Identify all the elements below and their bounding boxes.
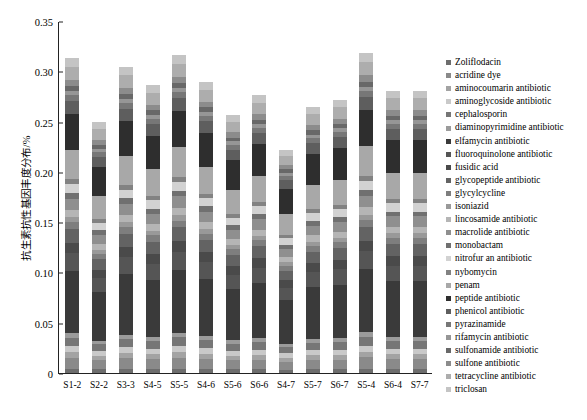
legend-item-label: pyrazinamide xyxy=(455,318,506,331)
legend-swatch-icon xyxy=(446,243,451,248)
legend-item[interactable]: glycopeptide antibiotic xyxy=(446,174,586,187)
legend-item[interactable]: macrolide antibiotic xyxy=(446,226,586,239)
bar-S5-5[interactable]: S5-5 xyxy=(172,55,186,373)
legend: Zoliflodacinacridine dyeaminocoumarin an… xyxy=(446,56,586,396)
bar-S5-7[interactable]: S5-7 xyxy=(306,107,320,373)
bar-S5-4[interactable]: S5-4 xyxy=(359,53,373,373)
bar-segment xyxy=(252,176,266,202)
legend-item[interactable]: sulfone antibiotic xyxy=(446,357,586,370)
legend-item[interactable]: nybomycin xyxy=(446,266,586,279)
legend-item[interactable]: sulfonamide antibiotic xyxy=(446,344,586,357)
bar-segment xyxy=(146,341,160,349)
bar-segment xyxy=(146,200,160,208)
legend-swatch-icon xyxy=(446,230,451,235)
legend-swatch-icon xyxy=(446,99,451,104)
bar-segment xyxy=(413,140,427,172)
legend-item[interactable]: diaminopyrimidine antibiotic xyxy=(446,121,586,134)
legend-item-label: macrolide antibiotic xyxy=(455,226,530,239)
bar-segment xyxy=(333,209,347,217)
bar-segment xyxy=(306,343,320,350)
bar-S4-6[interactable]: S4-6 xyxy=(199,82,213,373)
bar-segment xyxy=(172,64,186,77)
bar-S7-7[interactable]: S7-7 xyxy=(413,91,427,373)
bar-segment xyxy=(386,256,400,265)
bar-segment xyxy=(359,369,373,373)
legend-item[interactable]: Zoliflodacin xyxy=(446,56,586,69)
x-axis-tick-label: S5-7 xyxy=(304,380,322,390)
legend-swatch-icon xyxy=(446,374,451,379)
legend-swatch-icon xyxy=(446,204,451,209)
bar-S6-7[interactable]: S6-7 xyxy=(333,100,347,373)
bar-segment xyxy=(252,103,266,115)
x-axis-tick-label: S6-6 xyxy=(250,380,268,390)
bar-segment xyxy=(279,280,293,287)
legend-item[interactable]: isoniazid xyxy=(446,200,586,213)
bar-segment xyxy=(226,160,240,190)
bar-segment xyxy=(413,91,427,99)
bar-segment xyxy=(252,133,266,144)
bar-segment xyxy=(146,254,160,264)
legend-item[interactable]: nitrofur an antibiotic xyxy=(446,252,586,265)
bar-segment xyxy=(306,360,320,369)
bar-segment xyxy=(333,342,347,349)
y-axis-tick-label: 0.10 xyxy=(35,268,59,279)
legend-item[interactable]: fluoroquinolone antibiotic xyxy=(446,148,586,161)
bar-segment xyxy=(92,270,106,278)
legend-item[interactable]: phenicol antibiotic xyxy=(446,305,586,318)
legend-item[interactable]: peptide antibiotic xyxy=(446,292,586,305)
bar-segment xyxy=(65,222,79,229)
bar-segment xyxy=(306,185,320,210)
legend-item[interactable]: penam xyxy=(446,279,586,292)
bar-S6-4[interactable]: S6-4 xyxy=(386,91,400,373)
bar-segment xyxy=(252,144,266,176)
bar-S4-5[interactable]: S4-5 xyxy=(146,85,160,373)
legend-item[interactable]: tetracycline antibiotic xyxy=(446,370,586,383)
bar-segment xyxy=(92,344,106,351)
bar-segment xyxy=(92,259,106,270)
bar-segment xyxy=(359,196,373,208)
bar-segment xyxy=(413,129,427,140)
bar-S4-7[interactable]: S4-7 xyxy=(279,150,293,373)
legend-item[interactable]: monobactam xyxy=(446,239,586,252)
legend-item[interactable]: cephalosporin xyxy=(446,108,586,121)
bar-S6-6[interactable]: S6-6 xyxy=(252,95,266,373)
bar-segment xyxy=(252,95,266,103)
legend-item[interactable]: aminoglycoside antibiotic xyxy=(446,95,586,108)
bar-segment xyxy=(199,167,213,194)
bar-segment xyxy=(252,283,266,338)
bar-segment xyxy=(359,207,373,214)
legend-item[interactable]: fusidic acid xyxy=(446,161,586,174)
bar-segment xyxy=(119,369,133,373)
legend-item-label: glycylcycline xyxy=(455,187,505,200)
bar-segment xyxy=(359,227,373,241)
bar-segment xyxy=(92,167,106,196)
bar-segment xyxy=(226,230,240,239)
legend-item[interactable]: rifamycin antibiotic xyxy=(446,331,586,344)
legend-item[interactable]: pyrazinamide xyxy=(446,318,586,331)
bar-segment xyxy=(65,369,79,373)
bar-segment xyxy=(413,173,427,199)
bar-segment xyxy=(65,229,79,243)
bar-segment xyxy=(65,253,79,271)
legend-item[interactable]: aminocoumarin antibiotic xyxy=(446,82,586,95)
bar-segment xyxy=(413,203,427,211)
bar-segment xyxy=(386,129,400,140)
bar-segment xyxy=(386,369,400,373)
bar-segment xyxy=(306,263,320,272)
legend-swatch-icon xyxy=(446,348,451,353)
bar-S5-6[interactable]: S5-6 xyxy=(226,115,240,373)
bar-S2-2[interactable]: S2-2 xyxy=(92,122,106,373)
bar-segment xyxy=(119,67,133,75)
legend-item[interactable]: elfamycin antibiotic xyxy=(446,135,586,148)
bar-segment xyxy=(252,246,266,258)
bar-segment xyxy=(359,269,373,332)
legend-item[interactable]: triclosan xyxy=(446,383,586,396)
bar-S3-3[interactable]: S3-3 xyxy=(119,67,133,373)
bar-segment xyxy=(386,173,400,199)
legend-item[interactable]: lincosamide antibiotic xyxy=(446,213,586,226)
bar-S1-2[interactable]: S1-2 xyxy=(65,58,79,373)
legend-swatch-icon xyxy=(446,165,451,170)
y-axis-tick-label: 0 xyxy=(48,369,59,380)
legend-item[interactable]: glycylcycline xyxy=(446,187,586,200)
legend-item[interactable]: acridine dye xyxy=(446,69,586,82)
